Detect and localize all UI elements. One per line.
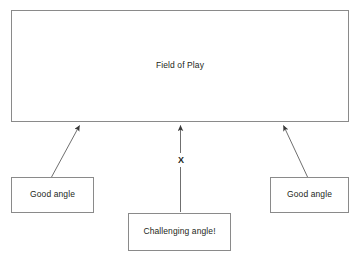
field-of-play-box: Field of Play xyxy=(11,10,349,122)
challenging-angle-label: Challenging angle! xyxy=(143,227,215,236)
field-of-play-label: Field of Play xyxy=(156,61,204,70)
good-angle-left-box: Good angle xyxy=(11,177,94,213)
good-angle-right-box: Good angle xyxy=(270,177,349,213)
arrow-good-angle-right xyxy=(284,126,309,179)
good-angle-left-label: Good angle xyxy=(30,190,75,199)
good-angle-right-label: Good angle xyxy=(287,190,332,199)
blocked-x-marker: X xyxy=(175,153,187,167)
arrow-good-angle-left xyxy=(51,126,80,179)
challenging-angle-box: Challenging angle! xyxy=(128,213,231,251)
diagram-canvas: Field of Play Good angle Challenging ang… xyxy=(0,0,361,256)
